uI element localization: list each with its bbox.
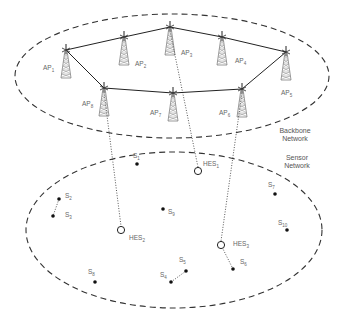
labels: BackboneNetworkSensorNetworkAP1AP2AP3AP4… (43, 49, 311, 280)
hes-node-icon (117, 226, 124, 233)
tower-icon (165, 21, 175, 55)
label-S1: S1 (133, 152, 140, 161)
link-AP7-AP8 (104, 88, 173, 93)
hes-node-icon (194, 167, 201, 174)
label-HES1: HES1 (203, 160, 219, 169)
link-AP1-AP2 (66, 37, 124, 50)
label-S4: S4 (160, 271, 167, 280)
link-AP4-AP5 (222, 37, 286, 52)
label-AP3: AP3 (181, 49, 193, 58)
sensor-node-icon (51, 214, 55, 218)
label-AP1: AP1 (43, 64, 55, 73)
hes-node-icon (217, 241, 224, 248)
label-S8: S8 (88, 268, 95, 277)
label-AP2: AP2 (135, 60, 147, 69)
link-AP5-AP6 (242, 52, 286, 89)
sensor-node-icon (285, 228, 289, 232)
label-S10: S10 (278, 219, 288, 228)
label-S7: S7 (268, 181, 275, 190)
sensor-node-icon (184, 269, 188, 273)
tower-icon (168, 87, 178, 121)
sensor-network-boundary (26, 152, 322, 308)
label-AP8: AP8 (82, 100, 94, 109)
network-diagram: BackboneNetworkSensorNetworkAP1AP2AP3AP4… (0, 0, 347, 322)
link-AP8-AP1 (66, 50, 104, 88)
sensor-node-icon (169, 280, 173, 284)
backbone-links (66, 27, 286, 93)
sensor-network-label: Sensor (286, 154, 309, 161)
sensor-node-icon (135, 162, 139, 166)
label-HES2: HES2 (129, 234, 145, 243)
label-AP5: AP5 (281, 89, 293, 98)
network-regions (15, 14, 329, 308)
sensor-network-label: Network (284, 162, 310, 169)
sensor-node-icon (57, 197, 61, 201)
sensor-nodes (51, 162, 289, 284)
label-AP4: AP4 (235, 57, 247, 66)
sensor-link-S2-S3 (53, 199, 59, 216)
label-S5: S5 (179, 256, 186, 265)
tower-icon (99, 82, 109, 116)
sensor-node-icon (231, 267, 235, 271)
link-AP3-AP4 (170, 27, 222, 37)
sensor-link-S4-S5 (171, 271, 186, 282)
sensor-node-icon (161, 207, 165, 211)
label-S3: S3 (65, 211, 72, 220)
sensor-node-icon (273, 192, 277, 196)
label-S2: S2 (65, 192, 72, 201)
label-HES3: HES3 (233, 240, 249, 249)
label-S6: S6 (240, 258, 247, 267)
label-AP6: AP6 (219, 109, 231, 118)
backbone-network-label: Network (282, 135, 308, 142)
label-S9: S9 (168, 208, 175, 217)
sensor-node-icon (93, 280, 97, 284)
tower-icon (237, 83, 247, 117)
backbone-network-label: Backbone (279, 127, 310, 134)
label-AP7: AP7 (150, 109, 162, 118)
access-points (61, 21, 291, 121)
hes-uplinks (104, 31, 242, 241)
link-AP2-AP3 (124, 27, 170, 37)
link-AP6-AP7 (173, 89, 242, 93)
